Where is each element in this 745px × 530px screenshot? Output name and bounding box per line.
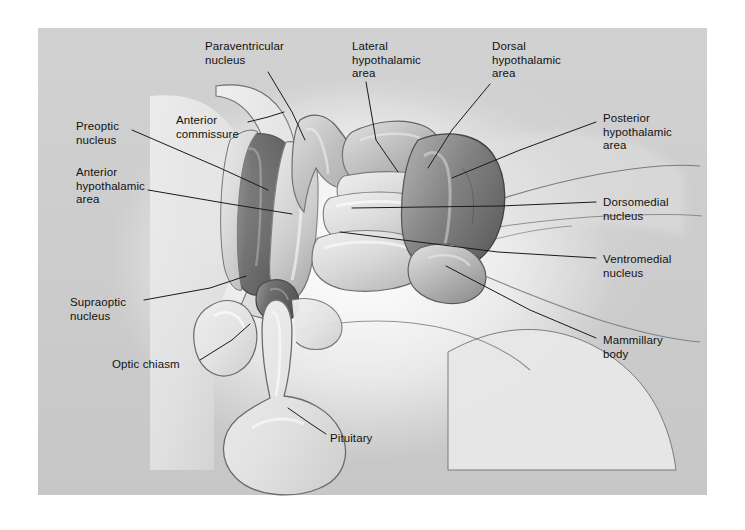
label-lateral-hypothalamic-area: Lateral hypothalamic area [352, 40, 421, 81]
label-pituitary: Pituitary [330, 432, 372, 446]
label-supraoptic-nucleus: Supraoptic nucleus [70, 296, 126, 323]
label-dorsomedial-nucleus: Dorsomedial nucleus [603, 196, 669, 223]
label-optic-chiasm: Optic chiasm [112, 358, 180, 372]
label-dorsal-hypothalamic-area: Dorsal hypothalamic area [492, 40, 561, 81]
label-posterior-hypothalamic-area: Posterior hypothalamic area [603, 112, 672, 153]
label-paraventricular-nucleus: Paraventricular nucleus [205, 40, 284, 67]
figure-canvas: Paraventricular nucleusLateral hypothala… [0, 0, 745, 530]
label-mammillary-body: Mammillary body [603, 334, 663, 361]
label-anterior-hypothalamic-area: Anterior hypothalamic area [76, 166, 145, 207]
label-ventromedial-nucleus: Ventromedial nucleus [603, 253, 671, 280]
label-preoptic-nucleus: Preoptic nucleus [76, 120, 119, 147]
label-anterior-commissure: Anterior commissure [176, 114, 239, 141]
